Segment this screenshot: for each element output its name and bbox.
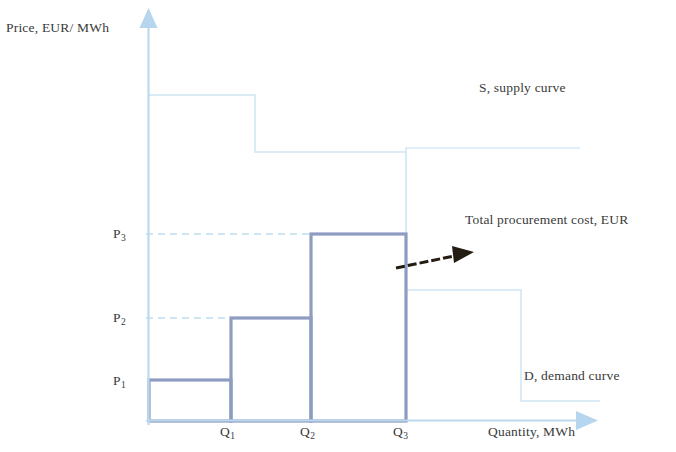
quantity-axis-title: Quantity, MWh <box>488 424 575 440</box>
price-axis-title: Price, EUR/ MWh <box>6 20 109 36</box>
total-procurement-cost-label: Total procurement cost, EUR <box>465 212 628 228</box>
x-tick-q2-base: Q <box>300 424 310 439</box>
total-cost-arrow <box>396 246 474 268</box>
price-axis-arrowhead <box>140 8 158 28</box>
x-tick-label-q1: Q1 <box>220 424 235 440</box>
y-tick-label-p2: P2 <box>113 310 126 326</box>
y-tick-p1-subscript: 1 <box>121 380 126 390</box>
cost-block-2 <box>231 318 311 421</box>
x-tick-q3-subscript: 3 <box>403 431 408 441</box>
y-tick-p1-base: P <box>113 373 121 388</box>
supply-curve-label: S, supply curve <box>479 80 566 96</box>
x-tick-q2-subscript: 2 <box>310 431 315 441</box>
x-tick-label-q2: Q2 <box>300 424 315 440</box>
y-tick-p2-base: P <box>113 310 121 325</box>
demand-curve-label: D, demand curve <box>524 368 620 384</box>
x-tick-q1-base: Q <box>220 424 230 439</box>
quantity-axis-arrowhead <box>576 411 598 430</box>
cost-block-3 <box>311 234 406 421</box>
y-tick-p2-subscript: 2 <box>121 317 126 327</box>
y-tick-label-p1: P1 <box>113 373 126 389</box>
y-tick-p3-subscript: 3 <box>121 233 126 243</box>
x-tick-q3-base: Q <box>393 424 403 439</box>
y-tick-p3-base: P <box>113 226 121 241</box>
x-tick-q1-subscript: 1 <box>230 431 235 441</box>
x-tick-label-q3: Q3 <box>393 424 408 440</box>
cost-block-1 <box>149 380 231 421</box>
y-tick-label-p3: P3 <box>113 226 126 242</box>
demand-curve <box>149 95 600 401</box>
